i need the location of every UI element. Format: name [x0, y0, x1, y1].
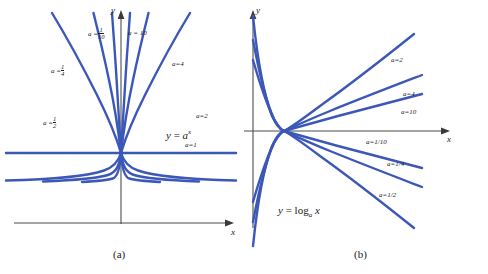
- equation-b-equals: =: [286, 204, 292, 216]
- equation-a-lhs: y: [166, 129, 171, 141]
- panel-b-label-a-one-quarter: a=1/4: [387, 161, 404, 168]
- panel-a-label-a-one-tenth: a =110: [88, 27, 104, 41]
- y-axis-arrowhead-a: [118, 10, 125, 19]
- x-axis-arrowhead-a: [225, 220, 234, 227]
- panel-a-label-a-two: a=2: [196, 113, 208, 120]
- panel-a-label-a-four: a=4: [172, 61, 184, 68]
- curve-a-one-quarter: [94, 13, 200, 182]
- equation-a-equals: =: [174, 129, 180, 141]
- label-value: 10: [140, 29, 147, 37]
- curve-b-one-half: [253, 131, 414, 246]
- panel-a-x-axis-label: x: [231, 228, 235, 237]
- label-value: 4: [180, 60, 184, 68]
- panel-a-equation: y = ax: [166, 129, 191, 141]
- curve-b-2: [253, 16, 414, 131]
- panel-a-y-axis-label: y: [111, 6, 115, 15]
- panel-b-caption: (b): [354, 248, 367, 260]
- label-prefix: a =: [51, 67, 61, 75]
- panel-a-plot: [0, 0, 244, 274]
- panel-a-caption: (a): [113, 248, 125, 260]
- fraction-one-half: 12: [53, 116, 56, 130]
- equation-a-exponent: x: [188, 128, 191, 136]
- equation-b-argument: x: [315, 204, 320, 216]
- panel-b-plot: [244, 0, 488, 274]
- label-value: 1: [193, 141, 197, 149]
- panel-b-x-axis-label: x: [447, 135, 451, 144]
- panel-a-label-a-one-half: a =12: [43, 116, 56, 130]
- label-prefix: a =: [43, 119, 53, 127]
- curve-b-10: [253, 60, 422, 131]
- fraction-one-tenth: 110: [98, 27, 105, 41]
- panel-a-exponential: y x y = ax a =110 a = 10 a =14 a=4 a =12…: [0, 0, 244, 274]
- equation-b-lhs: y: [278, 204, 283, 216]
- panel-a-label-a-ten: a = 10: [128, 30, 147, 37]
- panel-b-y-axis-label: y: [256, 6, 260, 15]
- figure-exponential-logarithmic-graphs: y x y = ax a =110 a = 10 a =14 a=4 a =12…: [0, 0, 488, 274]
- label-prefix: a =: [88, 30, 98, 38]
- panel-a-label-a-one: a=1: [185, 142, 197, 149]
- panel-b-label-a-one-tenth: a=1/10: [366, 139, 387, 146]
- label-prefix: a=: [196, 112, 204, 120]
- label-prefix: a=: [172, 60, 180, 68]
- label-value: 2: [204, 112, 208, 120]
- panel-b-equation: y = loga x: [278, 205, 320, 219]
- panel-b-label-a-one-half: a=1/2: [379, 192, 396, 199]
- panel-b-label-a-two: a=2: [391, 57, 403, 64]
- equation-b-base: a: [309, 211, 313, 219]
- label-prefix: a =: [128, 29, 138, 37]
- panel-b-label-a-four: a=4: [403, 91, 415, 98]
- label-prefix: a=: [185, 141, 193, 149]
- equation-b-function: log: [295, 204, 309, 216]
- panel-a-label-a-one-quarter: a =14: [51, 64, 64, 78]
- panel-b-logarithmic: y x y = loga x a=2 a=4 a=10 a=1/10 a=1/4…: [244, 0, 488, 274]
- fraction-one-quarter: 14: [61, 64, 64, 78]
- panel-b-label-a-ten: a=10: [401, 109, 416, 116]
